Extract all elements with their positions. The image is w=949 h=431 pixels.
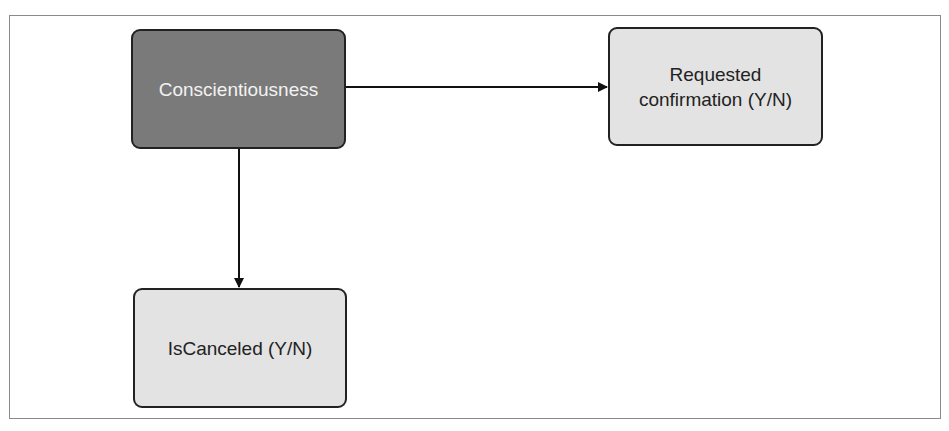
node-iscanceled: IsCanceled (Y/N) — [133, 288, 347, 408]
node-conscientiousness: Conscientiousness — [131, 29, 346, 149]
node-conscientiousness-label: Conscientiousness — [159, 77, 318, 102]
node-requested-confirmation-line1: Requested — [639, 62, 792, 87]
node-iscanceled-label: IsCanceled (Y/N) — [168, 336, 313, 361]
node-requested-confirmation: Requested confirmation (Y/N) — [608, 27, 823, 146]
node-requested-confirmation-line2: confirmation (Y/N) — [639, 87, 792, 112]
